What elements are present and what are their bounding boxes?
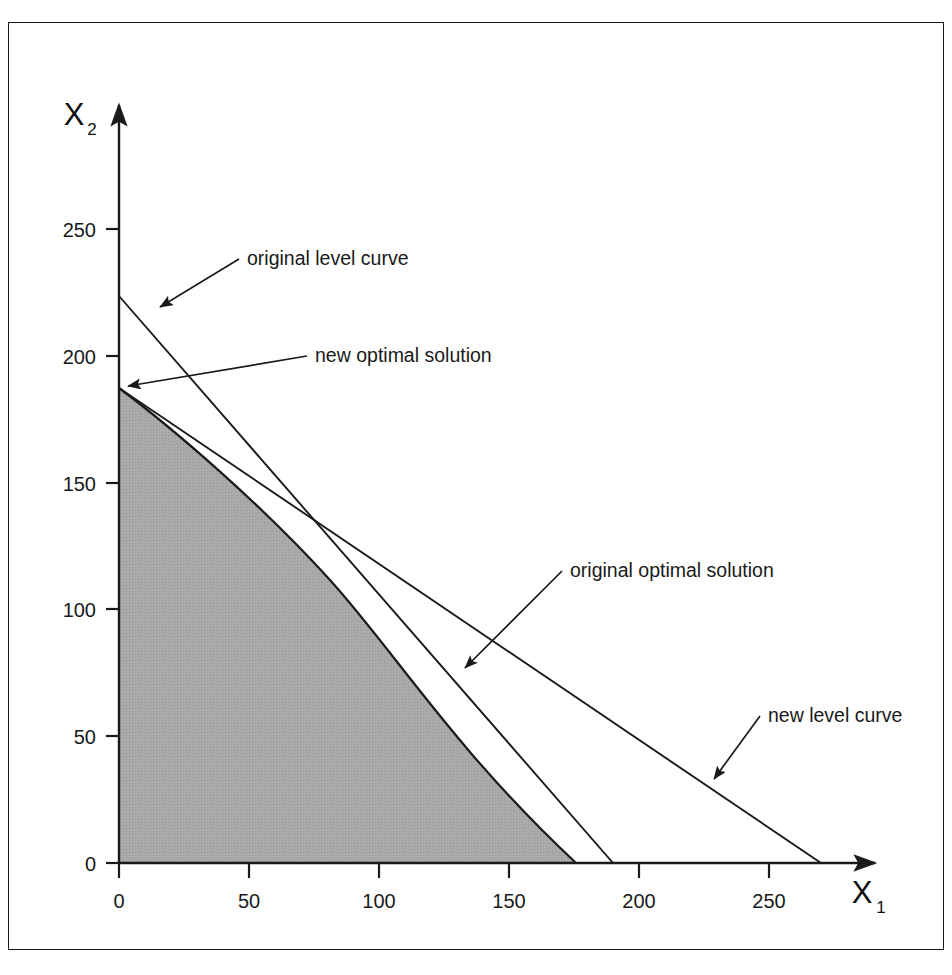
y-axis-title-subscript: 2 — [87, 120, 96, 139]
y-tick-label-100: 100 — [63, 599, 96, 621]
annotation-new-optimal-solution-label: new optimal solution — [315, 344, 492, 366]
figure-page: 0 50 100 150 200 250 0 50 100 150 200 25… — [0, 0, 952, 975]
y-tick-label-150: 150 — [63, 473, 96, 495]
plot-area: 0 50 100 150 200 250 0 50 100 150 200 25… — [0, 0, 952, 975]
x-tick-label-150: 150 — [492, 890, 525, 912]
x-axis-ticks — [119, 863, 769, 878]
annotation-new-level-curve-label: new level curve — [768, 704, 902, 726]
x-tick-label-0: 0 — [113, 890, 124, 912]
annotation-original-optimal-solution-label: original optimal solution — [570, 559, 774, 581]
y-axis-ticks — [106, 229, 119, 863]
y-tick-label-0: 0 — [85, 853, 96, 875]
annotation-original-level-curve-label: original level curve — [247, 247, 409, 269]
y-tick-label-250: 250 — [63, 219, 96, 241]
x-tick-label-50: 50 — [238, 890, 260, 912]
annotation-new-level-curve-leader — [714, 716, 760, 779]
y-tick-label-200: 200 — [63, 346, 96, 368]
x-tick-label-200: 200 — [622, 890, 655, 912]
annotation-new-optimal-solution-leader — [128, 356, 307, 386]
y-tick-label-50: 50 — [74, 726, 96, 748]
x-tick-label-250: 250 — [752, 890, 785, 912]
annotation-original-level-curve-leader — [160, 259, 239, 307]
x-axis-title: X — [852, 875, 873, 910]
y-axis-title: X — [64, 97, 85, 132]
x-axis-title-subscript: 1 — [876, 898, 885, 917]
x-tick-label-100: 100 — [362, 890, 395, 912]
annotation-original-optimal-solution-leader — [465, 571, 562, 668]
